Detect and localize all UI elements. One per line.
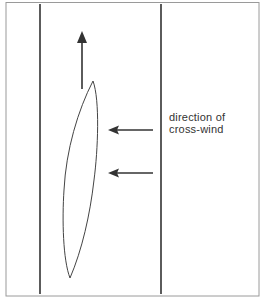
- label-line-1: direction of: [169, 111, 225, 123]
- cross-wind-diagram: [0, 0, 263, 302]
- label-line-2: cross-wind: [169, 123, 225, 135]
- heading-arrow-icon: [77, 31, 87, 89]
- wind-arrow-icon: [108, 169, 153, 178]
- sail-shape: [63, 81, 98, 278]
- frame-border: [6, 3, 259, 297]
- cross-wind-label: direction of cross-wind: [169, 111, 225, 135]
- wind-arrow-icon: [108, 126, 153, 135]
